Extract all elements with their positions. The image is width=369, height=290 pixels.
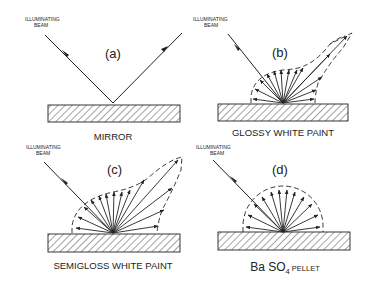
panel-a-mirror: ILLUMINATING BEAM (a) MIRROR [25, 16, 182, 142]
pellet-surface [218, 232, 350, 250]
diffuse-rays [253, 36, 347, 103]
panel-label: (c) [107, 162, 122, 177]
panel-d-baso4: ILLUMINATING BEAM (d) Ba SO4 PELLET [196, 144, 350, 276]
beam-label: BEAM [204, 22, 218, 28]
arrow-icon [161, 46, 168, 52]
incident-beam [44, 162, 113, 233]
reflected-beam [113, 33, 182, 103]
beam-label: BEAM [210, 150, 224, 156]
panel-b-glossy: ILLUMINATING BEAM (b) GLOSSY WHITE PAINT [193, 16, 352, 138]
scatter-envelope [243, 186, 323, 232]
mirror-surface [48, 105, 180, 122]
caption: SEMIGLOSS WHITE PAINT [53, 260, 172, 271]
beam-label: BEAM [36, 150, 50, 156]
incident-beam [45, 35, 113, 103]
caption: Ba SO4 PELLET [250, 260, 320, 276]
paint-surface [48, 234, 180, 252]
panel-label: (d) [272, 162, 288, 177]
beam-label: BEAM [34, 22, 48, 28]
diffuse-rays [246, 190, 320, 232]
reflectance-diagram: ILLUMINATING BEAM (a) MIRROR ILLUMINATIN… [0, 0, 369, 290]
arrow-icon [230, 176, 237, 183]
panel-label: (a) [105, 46, 121, 61]
scatter-envelope [251, 33, 352, 103]
caption: GLOSSY WHITE PAINT [232, 127, 334, 138]
panel-c-semigloss: ILLUMINATING BEAM (c) SEMIGLOSS WHITE PA… [26, 144, 182, 271]
arrow-icon [61, 178, 68, 185]
paint-surface [218, 104, 348, 121]
panel-label: (b) [272, 45, 288, 60]
diffuse-rays [76, 160, 178, 233]
caption: MIRROR [94, 131, 133, 142]
